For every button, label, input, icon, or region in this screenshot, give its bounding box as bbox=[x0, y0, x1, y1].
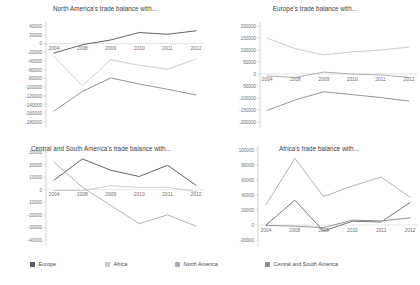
legend-item-north-america[interactable]: North America bbox=[175, 258, 218, 270]
y-axis-tick-label: 150000 bbox=[241, 36, 256, 41]
x-axis-tick-label: 2010 bbox=[134, 192, 145, 197]
x-axis-tick-label: 2011 bbox=[376, 228, 387, 233]
y-axis-tick-label: -40000 bbox=[28, 58, 42, 63]
plot-area-north-america: 40000200000-20000-40000-60000-80000-1000… bbox=[0, 0, 210, 140]
y-axis-tick-label: 0 bbox=[39, 187, 42, 192]
x-axis-tick-label: 2009 bbox=[318, 228, 329, 233]
series-line-africa bbox=[267, 38, 409, 55]
series-line-central-and-south-america bbox=[54, 78, 196, 111]
plot-area-europe: 200000150000100000500000-50000-100000-15… bbox=[210, 0, 420, 140]
y-axis-tick-label: -150000 bbox=[239, 108, 256, 113]
chart-panel-central-and-south-america: Central and South America's trade balanc… bbox=[0, 140, 210, 255]
x-axis-tick-label: 2010 bbox=[134, 46, 145, 51]
chart-panel-africa: Africa's trade balance with... 100000800… bbox=[210, 140, 420, 255]
y-axis-tick-label: -20000 bbox=[28, 50, 42, 55]
y-axis-tick-label: 20000 bbox=[241, 208, 254, 213]
plot-area-central-and-south-america: 3000020000100000-10000-20000-30000-40000… bbox=[0, 140, 210, 255]
x-axis-tick-label: 2011 bbox=[375, 77, 386, 82]
x-axis-tick-label: 2004 bbox=[49, 46, 60, 51]
legend-swatch-icon bbox=[30, 262, 35, 267]
y-axis-tick-label: 20000 bbox=[29, 32, 42, 37]
legend-item-africa[interactable]: Africa bbox=[105, 258, 127, 270]
x-axis-tick-label: 2008 bbox=[77, 192, 88, 197]
legend-label: North America bbox=[184, 261, 218, 267]
y-axis-tick-label: -20000 bbox=[28, 212, 42, 217]
y-axis-tick-label: -120000 bbox=[25, 93, 42, 98]
y-axis-tick-label: -20000 bbox=[240, 238, 254, 243]
chart-panel-north-america: North America's trade balance with... 40… bbox=[0, 0, 210, 140]
x-axis-tick-label: 2011 bbox=[162, 192, 173, 197]
y-axis-tick-label: -80000 bbox=[28, 76, 42, 81]
x-axis-tick-label: 2009 bbox=[105, 46, 116, 51]
y-axis-tick-label: 10000 bbox=[29, 175, 42, 180]
y-axis-tick-label: 40000 bbox=[241, 193, 254, 198]
trade-balance-dashboard: North America's trade balance with... 40… bbox=[0, 0, 420, 285]
x-axis-tick-label: 2010 bbox=[347, 228, 358, 233]
x-axis-tick-label: 2008 bbox=[290, 77, 301, 82]
y-axis-tick-label: 80000 bbox=[241, 163, 254, 168]
legend-label: Europe bbox=[39, 261, 56, 267]
y-axis-tick-label: -160000 bbox=[25, 111, 42, 116]
y-axis-tick-label: 0 bbox=[253, 72, 256, 77]
y-axis-tick-label: 60000 bbox=[241, 178, 254, 183]
x-axis-tick-label: 2012 bbox=[405, 228, 416, 233]
y-axis-tick-label: 0 bbox=[251, 223, 254, 228]
series-line-europe bbox=[266, 158, 410, 205]
y-axis-tick-label: -140000 bbox=[25, 102, 42, 107]
x-axis-tick-label: 2004 bbox=[49, 192, 60, 197]
chart-panel-europe: Europe's trade balance with... 200000150… bbox=[210, 0, 420, 140]
x-axis-tick-label: 2008 bbox=[289, 228, 300, 233]
y-axis-tick-label: -100000 bbox=[25, 85, 42, 90]
series-line-central-and-south-america bbox=[267, 92, 409, 111]
series-line-north-america bbox=[267, 72, 409, 77]
legend-swatch-icon bbox=[105, 262, 110, 267]
legend-item-central-and-south-america[interactable]: Central and South America bbox=[265, 258, 338, 270]
x-axis-tick-label: 2004 bbox=[261, 228, 272, 233]
y-axis-tick-label: -40000 bbox=[28, 238, 42, 243]
series-line-africa bbox=[54, 186, 196, 192]
y-axis-tick-label: -60000 bbox=[28, 67, 42, 72]
y-axis-tick-label: 40000 bbox=[29, 24, 42, 29]
y-axis-tick-label: 200000 bbox=[241, 24, 256, 29]
x-axis-tick-label: 2010 bbox=[347, 77, 358, 82]
y-axis-tick-label: 50000 bbox=[243, 60, 256, 65]
y-axis-tick-label: -50000 bbox=[242, 84, 256, 89]
legend-swatch-icon bbox=[265, 262, 270, 267]
y-axis-tick-label: -10000 bbox=[28, 200, 42, 205]
series-line-north-america bbox=[54, 162, 196, 226]
y-axis-tick-label: 0 bbox=[39, 41, 42, 46]
x-axis-tick-label: 2012 bbox=[404, 77, 415, 82]
legend-item-europe[interactable]: Europe bbox=[30, 258, 56, 270]
x-axis-tick-label: 2012 bbox=[191, 46, 202, 51]
y-axis-tick-label: -100000 bbox=[239, 96, 256, 101]
y-axis-tick-label: -180000 bbox=[25, 120, 42, 125]
x-axis-tick-label: 2012 bbox=[191, 192, 202, 197]
y-axis-tick-label: 20000 bbox=[29, 162, 42, 167]
y-axis-tick-label: -30000 bbox=[28, 225, 42, 230]
x-axis-tick-label: 2009 bbox=[318, 77, 329, 82]
x-axis-tick-label: 2009 bbox=[105, 192, 116, 197]
x-axis-tick-label: 2008 bbox=[77, 46, 88, 51]
legend-swatch-icon bbox=[175, 262, 180, 267]
legend-label: Central and South America bbox=[274, 261, 338, 267]
chart-legend: EuropeAfricaNorth AmericaCentral and Sou… bbox=[0, 258, 420, 274]
x-axis-tick-label: 2011 bbox=[162, 46, 173, 51]
y-axis-tick-label: 100000 bbox=[241, 48, 256, 53]
y-axis-tick-label: -200000 bbox=[239, 120, 256, 125]
series-line-europe bbox=[54, 31, 196, 53]
x-axis-tick-label: 2004 bbox=[262, 77, 273, 82]
legend-label: Africa bbox=[114, 261, 128, 267]
y-axis-tick-label: 30000 bbox=[29, 150, 42, 155]
plot-area-africa: 100000800006000040000200000-200002004200… bbox=[210, 140, 420, 255]
y-axis-tick-label: 100000 bbox=[239, 148, 254, 153]
